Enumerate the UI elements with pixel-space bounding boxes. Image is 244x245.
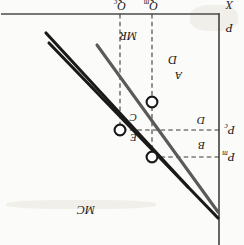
axis-label-price: P (226, 22, 233, 34)
region-label-c: C (130, 112, 137, 123)
price-tick-label-pm: Pm (222, 151, 235, 163)
region-label-e: E (130, 132, 137, 143)
curve-label-marginal-cost: MC (77, 204, 95, 216)
quantity-tick-label-qc: Qc (114, 0, 126, 12)
region-label-d: D (197, 115, 205, 126)
monopoly-price-marker (147, 152, 158, 163)
axis-label-quantity: X (226, 0, 233, 11)
figure-canvas: X P D MR MC Pm Pc Qm Qc A B C D E (0, 0, 244, 245)
competitive-equilibrium-marker (115, 125, 126, 136)
quantity-tick-label-qm: Qm (144, 0, 158, 12)
price-tick-label-pc: Pc (224, 124, 235, 136)
curve-label-marginal-revenue: MR (120, 30, 137, 42)
marginal-cost-curve-line (46, 33, 188, 187)
region-label-b: B (198, 140, 205, 151)
monopoly-output-marker (147, 97, 158, 108)
curve-label-demand: D (168, 54, 177, 66)
diagram-plate: X P D MR MC Pm Pc Qm Qc A B C D E (0, 0, 244, 245)
region-label-a: A (175, 70, 182, 81)
